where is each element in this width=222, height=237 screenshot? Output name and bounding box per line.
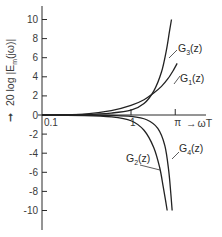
y-tick-label: 6 xyxy=(32,52,38,63)
y-tick-label: -10 xyxy=(24,205,39,216)
leader-line xyxy=(169,50,177,58)
curve-g3z xyxy=(42,20,171,116)
x-ticks: 0.11π xyxy=(44,109,181,128)
x-axis-title: →ωT xyxy=(186,117,213,129)
y-tick-label: -4 xyxy=(29,148,38,159)
y-tick-label: -8 xyxy=(29,186,38,197)
curve-label: G2(z) xyxy=(126,152,150,166)
leader-line xyxy=(140,165,160,170)
x-title-arrow: → xyxy=(186,117,197,129)
y-title-arrow: ➞ xyxy=(4,113,16,122)
y-tick-label: 8 xyxy=(32,33,38,44)
curve-g1z xyxy=(42,63,177,115)
curve-label: G3(z) xyxy=(178,42,202,56)
y-tick-label: -2 xyxy=(29,129,38,140)
curve-g4z xyxy=(42,115,172,211)
curve-labels: G3(z)G1(z)G2(z)G4(z) xyxy=(126,42,204,170)
curve-label: G4(z) xyxy=(179,142,203,156)
y-tick-label: -6 xyxy=(29,167,38,178)
y-title-tail: (jω)| xyxy=(4,39,16,59)
y-tick-label: 10 xyxy=(27,14,39,25)
y-tick-label: 4 xyxy=(32,71,38,82)
y-axis-title: ➞ 20 log |Em(jω)| xyxy=(4,39,18,122)
chart: 1086420-2-4-6-8-10 0.11π ➞ 20 log |Em(jω… xyxy=(0,0,222,237)
y-tick-label: 2 xyxy=(32,90,38,101)
x-tick-label: π xyxy=(174,117,181,128)
y-title-main: 20 log |E xyxy=(4,65,16,106)
x-title-text: ωT xyxy=(198,117,213,129)
y-tick-label: 0 xyxy=(32,110,38,121)
curve-label: G1(z) xyxy=(180,72,204,86)
svg-text:➞ 20 log |Em(jω)|: ➞ 20 log |Em(jω)| xyxy=(4,39,18,122)
leader-line xyxy=(172,152,179,159)
x-tick-label: 0.1 xyxy=(44,117,58,128)
